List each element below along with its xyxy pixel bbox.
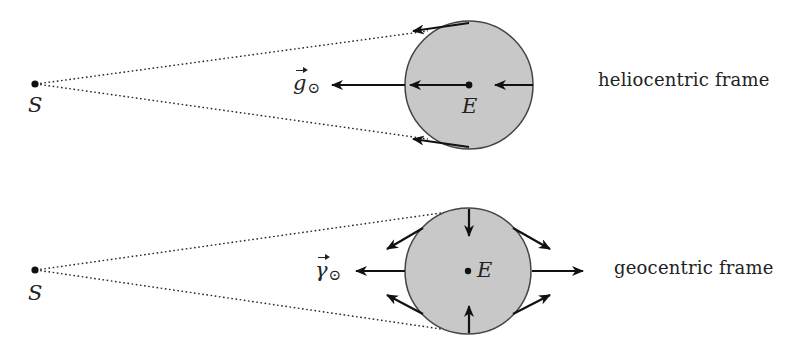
vector-label: γ⊙ bbox=[315, 258, 341, 284]
sun-dot bbox=[31, 266, 38, 273]
sight-line-upper bbox=[36, 212, 448, 270]
diagram-canvas bbox=[0, 0, 808, 349]
vector-symbol: γ bbox=[315, 258, 328, 282]
vector-symbol: g bbox=[293, 71, 306, 95]
sight-line-lower bbox=[36, 84, 428, 139]
sun-dot bbox=[31, 80, 38, 87]
sun-subscript-icon: ⊙ bbox=[307, 79, 320, 97]
sun-subscript-icon: ⊙ bbox=[329, 266, 342, 284]
earth-center-dot bbox=[466, 82, 473, 89]
sight-line-upper bbox=[36, 31, 428, 84]
frame-label-geocentric: geocentric frame bbox=[614, 257, 774, 278]
sight-line-lower bbox=[36, 270, 448, 330]
heliocentric-panel bbox=[31, 21, 533, 149]
earth-center-dot bbox=[465, 268, 471, 274]
earth-label: E bbox=[462, 94, 477, 118]
geocentric-panel bbox=[31, 208, 583, 334]
frame-label-heliocentric: heliocentric frame bbox=[598, 69, 770, 90]
vector-label: g⊙ bbox=[293, 71, 320, 97]
earth-label: E bbox=[477, 258, 492, 282]
sun-label: S bbox=[28, 281, 42, 305]
sun-label: S bbox=[28, 93, 42, 117]
